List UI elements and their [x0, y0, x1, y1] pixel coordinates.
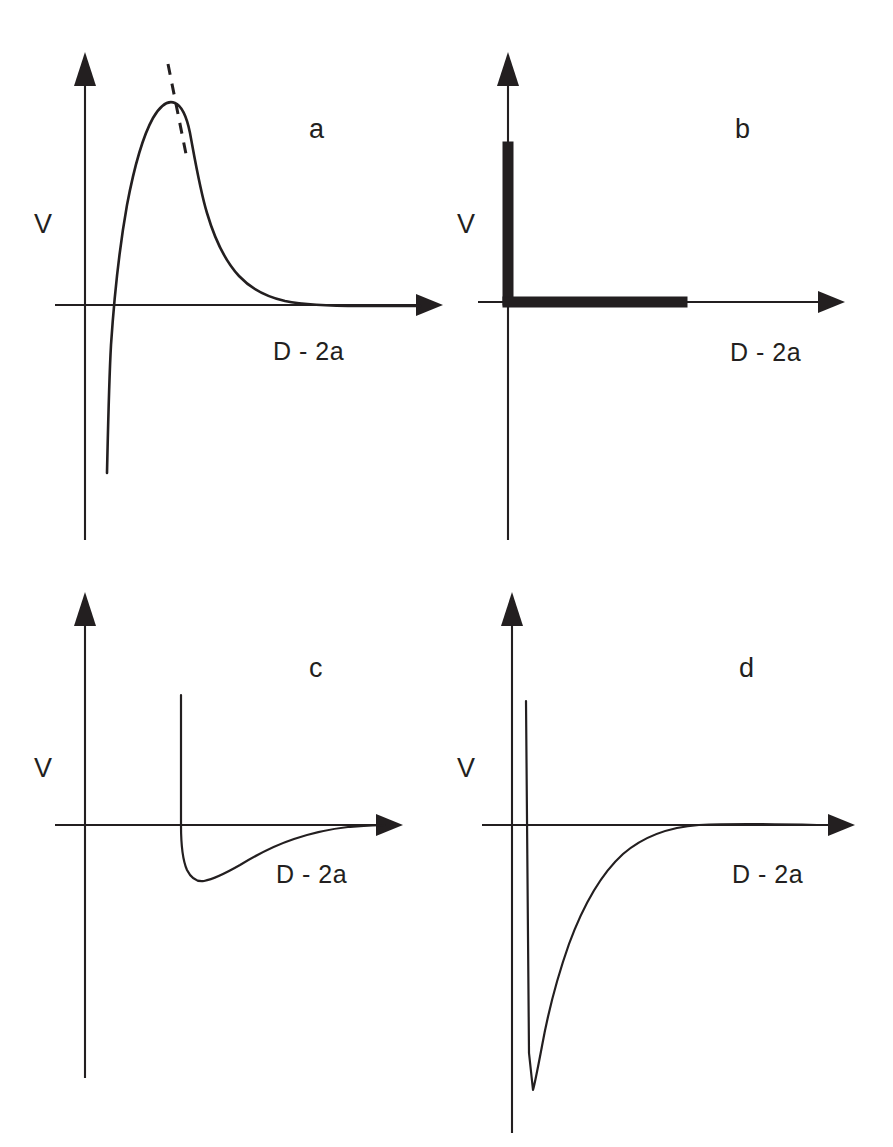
- figure-canvas: V D - 2a a V D - 2a b: [0, 0, 893, 1147]
- panel-letter-a: a: [309, 116, 325, 143]
- y-axis-a: [74, 52, 96, 540]
- tangent-line-a: [168, 64, 186, 154]
- panel-d: V D - 2a d: [447, 573, 893, 1147]
- panel-c: V D - 2a c: [0, 573, 447, 1147]
- y-axis-c: [74, 592, 96, 1078]
- panel-b: V D - 2a b: [447, 0, 893, 573]
- curve-a-potential: [107, 102, 420, 473]
- hard-wall-bar-b: [503, 142, 513, 305]
- x-axis-label-b: D - 2a: [730, 340, 801, 365]
- curve-c-potential: [181, 695, 385, 881]
- curve-d-potential: [526, 701, 817, 1090]
- y-axis-label-a: V: [34, 211, 53, 238]
- panel-letter-b: b: [735, 116, 751, 143]
- x-axis-c: [55, 814, 403, 836]
- x-axis-label-c: D - 2a: [276, 862, 347, 887]
- y-axis-label-b: V: [457, 211, 476, 238]
- zero-branch-bar-b: [503, 297, 687, 307]
- panel-letter-c: c: [309, 655, 323, 682]
- panel-a: V D - 2a a: [0, 0, 447, 573]
- x-axis-label-d: D - 2a: [732, 862, 803, 887]
- panel-letter-d: d: [739, 655, 755, 682]
- y-axis-d: [501, 592, 523, 1133]
- x-axis-label-a: D - 2a: [273, 339, 344, 364]
- y-axis-label-c: V: [34, 755, 53, 782]
- y-axis-label-d: V: [457, 755, 476, 782]
